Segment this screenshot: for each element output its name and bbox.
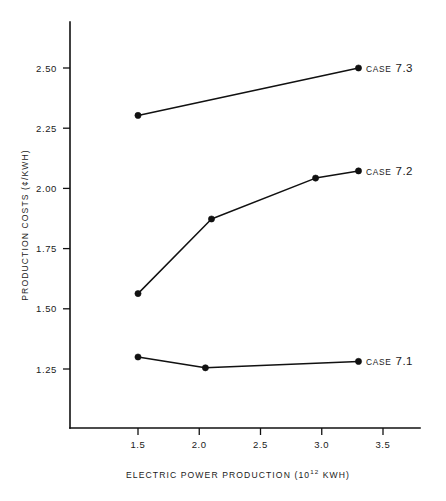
series-case-7-2 (135, 168, 362, 297)
series-label-number: 7.3 (396, 62, 413, 74)
series-label-prefix: CASE (366, 357, 392, 367)
y-axis-title: PRODUCTION COSTS (¢/KWH) (20, 149, 30, 301)
series-case-7-1 (135, 354, 362, 371)
data-point (208, 216, 214, 222)
y-tick-label-1.50: 1.50 (36, 303, 57, 314)
x-axis-title: ELECTRIC POWER PRODUCTION (1012 KWH) (126, 468, 350, 480)
series-case-7-3 (135, 65, 362, 119)
x-axis-title-base: ELECTRIC POWER PRODUCTION (10 (126, 470, 310, 480)
x-axis-title-tail: KWH) (319, 470, 350, 480)
series-label-case-7-3: CASE7.3 (366, 62, 413, 74)
data-point (313, 175, 319, 181)
x-tick-label-2.5: 2.5 (253, 439, 268, 450)
data-point (355, 358, 361, 364)
x-tick-label-3.5: 3.5 (375, 439, 390, 450)
series-label-prefix: CASE (366, 64, 392, 74)
data-point (135, 112, 141, 118)
series-line-case-7-1 (138, 357, 359, 368)
y-tick-label-2.25: 2.25 (36, 123, 57, 134)
series-label-number: 7.1 (396, 355, 413, 367)
data-point (202, 365, 208, 371)
y-axis-ticks (63, 68, 70, 369)
data-point (135, 354, 141, 360)
x-tick-label-1.5: 1.5 (130, 439, 145, 450)
data-point (135, 291, 141, 297)
data-point (355, 65, 361, 71)
series-label-number: 7.2 (396, 165, 413, 177)
x-axis-title-exponent: 12 (310, 468, 319, 475)
series-label-prefix: CASE (366, 167, 392, 177)
series-line-case-7-3 (138, 68, 359, 115)
series-line-case-7-2 (138, 171, 359, 294)
y-tick-label-1.25: 1.25 (36, 364, 57, 375)
series-label-case-7-2: CASE7.2 (366, 165, 413, 177)
x-axis-ticks (138, 428, 383, 435)
x-tick-label-3.0: 3.0 (314, 439, 329, 450)
production-costs-line-chart: 2.50 2.25 2.00 1.75 1.50 1.25 1.5 2.0 2.… (0, 0, 446, 501)
y-tick-label-2.50: 2.50 (36, 63, 57, 74)
y-tick-label-2.00: 2.00 (36, 183, 57, 194)
y-tick-label-1.75: 1.75 (36, 243, 57, 254)
data-point (355, 168, 361, 174)
x-tick-label-2.0: 2.0 (192, 439, 207, 450)
series-label-case-7-1: CASE7.1 (366, 355, 413, 367)
chart-figure: 2.50 2.25 2.00 1.75 1.50 1.25 1.5 2.0 2.… (0, 0, 446, 501)
